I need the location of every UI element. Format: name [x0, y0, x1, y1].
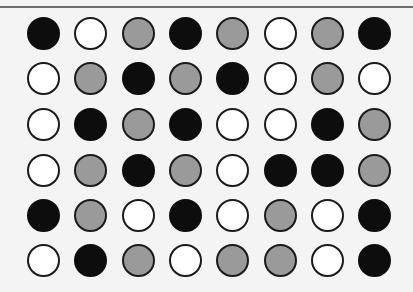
circle-gray-r2-c2: [74, 62, 107, 95]
circle-black-r6-c2: [74, 244, 107, 277]
circle-black-r2-c5: [216, 62, 249, 95]
circle-white-r2-c8: [358, 62, 391, 95]
circle-black-r5-c8: [358, 199, 391, 232]
circle-white-r1-c6: [264, 17, 297, 50]
circle-white-r6-c1: [27, 244, 60, 277]
circle-black-r5-c1: [27, 199, 60, 232]
circle-black-r2-c3: [122, 62, 155, 95]
circle-gray-r6-c5: [216, 244, 249, 277]
circle-gray-r4-c4: [169, 154, 202, 187]
circle-black-r3-c7: [311, 108, 344, 141]
circle-gray-r4-c8: [358, 154, 391, 187]
circle-black-r6-c8: [358, 244, 391, 277]
circle-black-r4-c3: [122, 154, 155, 187]
circle-gray-r1-c3: [122, 17, 155, 50]
circle-gray-r6-c6: [264, 244, 297, 277]
circle-white-r2-c1: [27, 62, 60, 95]
circle-black-r3-c4: [169, 108, 202, 141]
circle-gray-r1-c7: [311, 17, 344, 50]
circle-gray-r2-c4: [169, 62, 202, 95]
circle-grid: [0, 0, 413, 292]
circle-white-r4-c5: [216, 154, 249, 187]
circle-black-r1-c8: [358, 17, 391, 50]
circle-gray-r4-c2: [74, 154, 107, 187]
circle-white-r6-c4: [169, 244, 202, 277]
circle-gray-r1-c5: [216, 17, 249, 50]
circle-black-r3-c2: [74, 108, 107, 141]
circle-white-r6-c7: [311, 244, 344, 277]
circle-gray-r5-c2: [74, 199, 107, 232]
circle-white-r5-c7: [311, 199, 344, 232]
circle-black-r5-c4: [169, 199, 202, 232]
circle-white-r1-c2: [74, 17, 107, 50]
circle-gray-r3-c3: [122, 108, 155, 141]
circle-black-r4-c7: [311, 154, 344, 187]
circle-gray-r2-c7: [311, 62, 344, 95]
circle-gray-r3-c8: [358, 108, 391, 141]
circle-black-r1-c1: [27, 17, 60, 50]
circle-white-r4-c1: [27, 154, 60, 187]
circle-white-r5-c5: [216, 199, 249, 232]
circle-white-r3-c5: [216, 108, 249, 141]
circle-gray-r5-c6: [264, 199, 297, 232]
circle-white-r3-c6: [264, 108, 297, 141]
circle-white-r2-c6: [264, 62, 297, 95]
circle-gray-r6-c3: [122, 244, 155, 277]
circle-black-r1-c4: [169, 17, 202, 50]
circle-black-r4-c6: [264, 154, 297, 187]
circle-white-r5-c3: [122, 199, 155, 232]
circle-white-r3-c1: [27, 108, 60, 141]
